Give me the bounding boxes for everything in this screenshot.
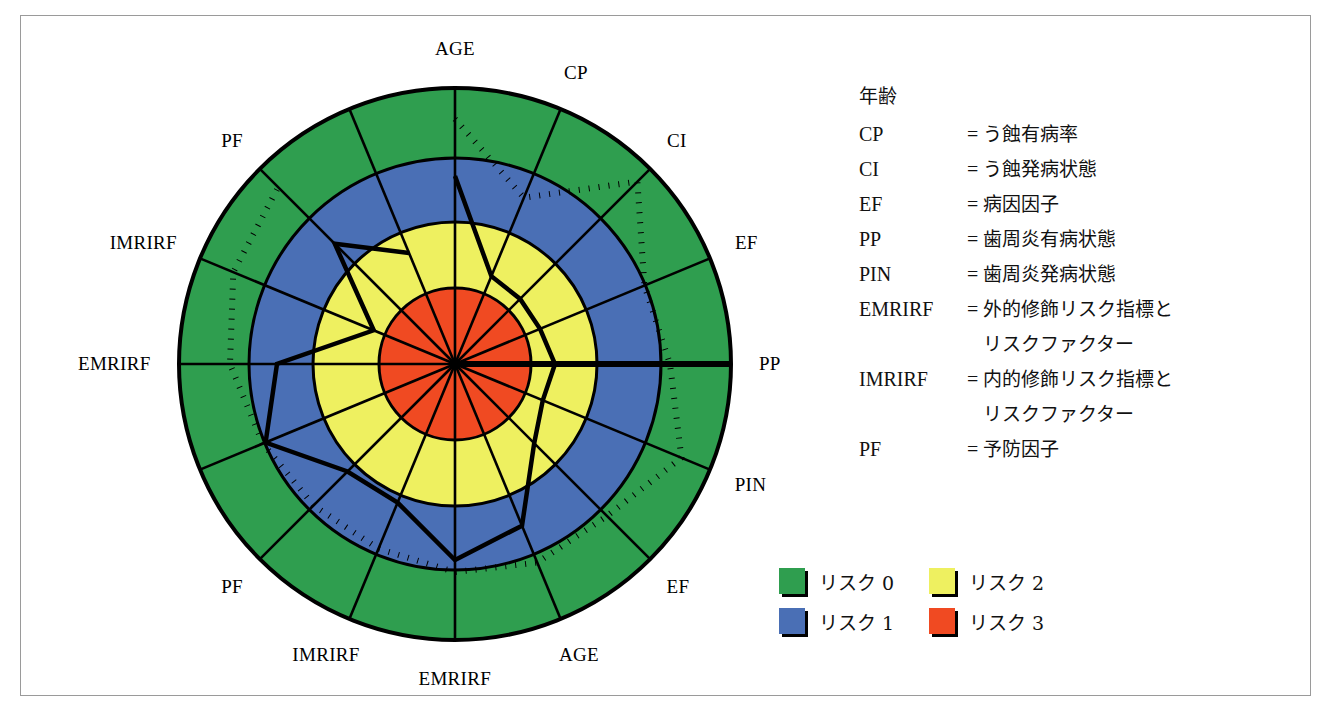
abbreviation-value: 病因因子	[983, 190, 1059, 218]
abbreviation-key: PIN	[859, 260, 967, 288]
abbreviation-row: CI=う蝕発病状態	[859, 155, 1299, 183]
axis-label-pf: PF	[221, 130, 243, 152]
abbreviation-value: 歯周炎発病状態	[983, 260, 1116, 288]
abbreviation-equals: =	[967, 295, 983, 323]
axis-label-imrirf: IMRIRF	[110, 232, 177, 254]
abbreviation-row: IMRIRF=内的修飾リスク指標と	[859, 365, 1299, 393]
risk-color-swatch	[779, 568, 805, 594]
risk-color-swatch	[929, 608, 955, 634]
abbreviation-equals: =	[967, 365, 983, 393]
axis-label-age2: AGE	[559, 644, 599, 666]
abbreviation-key: IMRIRF	[859, 365, 967, 393]
risk-legend-grid: リスク 0リスク 2リスク 1リスク 3	[779, 561, 1139, 641]
abbreviation-key: EMRIRF	[859, 295, 967, 323]
risk-color-swatch	[779, 608, 805, 634]
radar-chart-area: AGECPCIEFPPPINEFAGEEMRIRFIMRIRFPFEMRIRFI…	[21, 16, 811, 697]
abbreviation-value: う蝕発病状態	[983, 155, 1097, 183]
abbreviation-key: CP	[859, 120, 967, 148]
abbreviation-row: PF=予防因子	[859, 435, 1299, 463]
risk-legend-label: リスク 0	[819, 568, 894, 595]
risk-legend-item: リスク 0	[779, 561, 929, 601]
risk-legend-item: リスク 1	[779, 601, 929, 641]
abbreviation-value: 歯周炎有病状態	[983, 225, 1116, 253]
abbreviation-row: EMRIRF=外的修飾リスク指標と	[859, 295, 1299, 323]
abbreviation-equals: =	[967, 260, 983, 288]
abbreviation-row: PP=歯周炎有病状態	[859, 225, 1299, 253]
risk-legend-label: リスク 3	[969, 608, 1044, 635]
axis-label-ef2: EF	[667, 576, 690, 598]
abbreviation-row: PIN=歯周炎発病状態	[859, 260, 1299, 288]
risk-legend-item: リスク 3	[929, 601, 1079, 641]
risk-legend-item: リスク 2	[929, 561, 1079, 601]
abbreviation-value-continued: リスクファクター	[983, 400, 1299, 428]
risk-color-legend: リスク 0リスク 2リスク 1リスク 3	[779, 561, 1139, 641]
abbreviation-key: EF	[859, 190, 967, 218]
axis-label-emrirf: EMRIRF	[78, 353, 151, 375]
axis-label-emrirf2: EMRIRF	[419, 668, 492, 690]
axis-label-pin: PIN	[735, 474, 767, 496]
abbreviation-equals: =	[967, 190, 983, 218]
axis-label-age: AGE	[435, 38, 475, 60]
abbreviation-value: う蝕有病率	[983, 120, 1078, 148]
risk-legend-label: リスク 1	[819, 608, 894, 635]
abbreviation-key: PP	[859, 225, 967, 253]
abbreviation-legend: 年齢 CP=う蝕有病率CI=う蝕発病状態EF=病因因子PP=歯周炎有病状態PIN…	[859, 81, 1299, 470]
abbreviation-key: PF	[859, 435, 967, 463]
axis-label-cp: CP	[564, 62, 588, 84]
abbreviation-equals: =	[967, 155, 983, 183]
axis-label-ci: CI	[667, 130, 687, 152]
abbreviation-key: CI	[859, 155, 967, 183]
risk-legend-label: リスク 2	[969, 568, 1044, 595]
axis-label-pp: PP	[759, 353, 781, 375]
abbreviation-value: 外的修飾リスク指標と	[983, 295, 1173, 323]
figure-frame: AGECPCIEFPPPINEFAGEEMRIRFIMRIRFPFEMRIRFI…	[20, 15, 1311, 696]
abbreviation-rows: CP=う蝕有病率CI=う蝕発病状態EF=病因因子PP=歯周炎有病状態PIN=歯周…	[859, 120, 1299, 463]
abbreviation-row: CP=う蝕有病率	[859, 120, 1299, 148]
axis-label-imrirf2: IMRIRF	[292, 644, 359, 666]
abbreviation-equals: =	[967, 435, 983, 463]
abbreviation-equals: =	[967, 225, 983, 253]
abbreviation-equals: =	[967, 120, 983, 148]
abbreviation-value-continued: リスクファクター	[983, 330, 1299, 358]
risk-color-swatch	[929, 568, 955, 594]
axis-label-pf2: PF	[221, 576, 243, 598]
abbreviation-row: EF=病因因子	[859, 190, 1299, 218]
abbreviation-value: 予防因子	[983, 435, 1059, 463]
legend-title: 年齢	[859, 81, 1299, 108]
abbreviation-value: 内的修飾リスク指標と	[983, 365, 1173, 393]
axis-label-ef: EF	[735, 232, 758, 254]
